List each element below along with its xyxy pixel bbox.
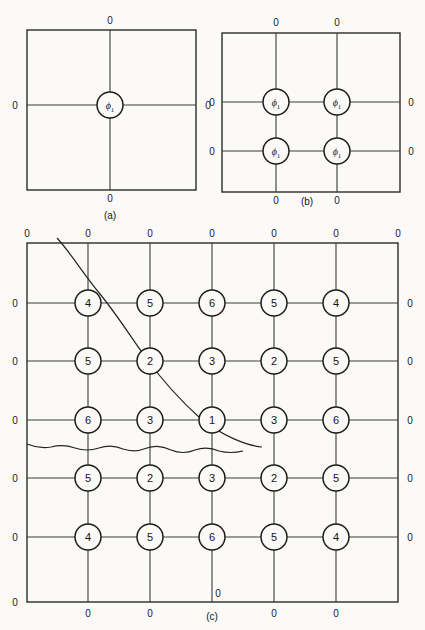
panel-c-zero-bottom-center-inner: 0 bbox=[215, 588, 221, 599]
panel-b: ϕ1 ϕ1 ϕ1 ϕ1 0 0 0 0 0 0 0 0 (b) bbox=[209, 17, 414, 207]
panel-b-zero-top-2: 0 bbox=[334, 17, 340, 28]
panel-c-zero-top: 0 bbox=[333, 228, 339, 239]
panel-b-zero-left-1: 0 bbox=[209, 97, 215, 108]
panel-b-frame bbox=[222, 33, 400, 192]
panel-b-zero-right-1: 0 bbox=[408, 97, 414, 108]
wavy-boundary-curve bbox=[27, 444, 243, 453]
panel-a-caption: (a) bbox=[104, 210, 116, 221]
panel-c-node-label: 5 bbox=[147, 297, 153, 309]
panel-c-node-label: 2 bbox=[147, 355, 153, 367]
panel-c-zero-right: 0 bbox=[407, 298, 413, 309]
panel-b-zero-right-2: 0 bbox=[408, 146, 414, 157]
panel-c-zero-right: 0 bbox=[407, 532, 413, 543]
panel-a: ϕ1 0 0 0 0 (a) bbox=[12, 15, 211, 221]
panel-c-node-label: 3 bbox=[271, 414, 277, 426]
panel-c-node-label: 5 bbox=[85, 355, 91, 367]
panel-c-zero-top: 0 bbox=[85, 228, 91, 239]
panel-c-zero-markers-top: 0 0 0 0 0 0 0 bbox=[24, 228, 401, 239]
panel-c-zero-top: 0 bbox=[395, 228, 401, 239]
panel-c-zero-bottom: 0 bbox=[147, 608, 153, 619]
panel-c-zero-top: 0 bbox=[24, 228, 30, 239]
panel-c-zero-left: 0 bbox=[12, 532, 18, 543]
panel-c-node-label: 3 bbox=[209, 472, 215, 484]
panel-c-node-label: 1 bbox=[209, 414, 215, 426]
panel-c-node-label: 5 bbox=[271, 297, 277, 309]
panel-c-zero-left: 0 bbox=[12, 356, 18, 367]
panel-c-zero-markers-right: 0 0 0 0 0 bbox=[407, 298, 413, 543]
panel-a-zero-top: 0 bbox=[107, 15, 113, 26]
panel-c-zero-bottom: 0 bbox=[333, 608, 339, 619]
panel-c-zero-right: 0 bbox=[407, 356, 413, 367]
panel-b-zero-bottom-2: 0 bbox=[334, 195, 340, 206]
panel-c-zero-top: 0 bbox=[147, 228, 153, 239]
panel-c-zero-markers-left: 0 0 0 0 0 0 bbox=[12, 298, 18, 608]
phi-subscript-glyph: 1 bbox=[111, 106, 115, 114]
figure-svg: ϕ1 0 0 0 0 (a) ϕ1 bbox=[0, 0, 425, 630]
panel-b-zero-bottom-1: 0 bbox=[273, 195, 279, 206]
panel-c-node-label: 5 bbox=[333, 355, 339, 367]
panel-a-zero-bottom: 0 bbox=[107, 193, 113, 204]
panel-c-node-label: 6 bbox=[209, 531, 215, 543]
panel-c-zero-right: 0 bbox=[407, 415, 413, 426]
panel-c-zero-left: 0 bbox=[12, 298, 18, 309]
panel-c-node-label: 5 bbox=[271, 531, 277, 543]
panel-c-zero-bottom: 0 bbox=[85, 608, 91, 619]
panel-c-node-label: 4 bbox=[85, 297, 91, 309]
panel-c-zero-left: 0 bbox=[12, 415, 18, 426]
panel-c-node-label: 3 bbox=[209, 355, 215, 367]
panel-c-zero-top: 0 bbox=[209, 228, 215, 239]
panel-b-zero-top-1: 0 bbox=[273, 17, 279, 28]
panel-c-node-label: 6 bbox=[209, 297, 215, 309]
panel-c-node-label: 2 bbox=[147, 472, 153, 484]
panel-c-zero-top: 0 bbox=[271, 228, 277, 239]
panel-c-zero-left-corner: 0 bbox=[12, 597, 18, 608]
panel-c-node-label: 4 bbox=[333, 297, 339, 309]
panel-c-zero-left: 0 bbox=[12, 473, 18, 484]
figure-root: ϕ1 0 0 0 0 (a) ϕ1 bbox=[0, 0, 425, 630]
panel-c-node-label: 6 bbox=[85, 414, 91, 426]
panel-c-node-label: 4 bbox=[333, 531, 339, 543]
panel-c-node-label: 2 bbox=[271, 472, 277, 484]
panel-c-node-label: 5 bbox=[147, 531, 153, 543]
panel-b-caption: (b) bbox=[301, 196, 313, 207]
panel-b-zero-left-2: 0 bbox=[209, 146, 215, 157]
panel-a-zero-left: 0 bbox=[12, 100, 18, 111]
panel-c-zero-right: 0 bbox=[407, 473, 413, 484]
panel-c-node-label: 4 bbox=[85, 531, 91, 543]
panel-c-node-label: 6 bbox=[333, 414, 339, 426]
panel-c: 4 5 6 5 4 5 2 3 2 5 6 bbox=[12, 228, 413, 622]
panel-c-node-label: 3 bbox=[147, 414, 153, 426]
panel-c-zero-bottom: 0 bbox=[271, 608, 277, 619]
panel-c-caption: (c) bbox=[206, 611, 218, 622]
panel-c-node-label: 5 bbox=[333, 472, 339, 484]
panel-c-node-label: 2 bbox=[271, 355, 277, 367]
panel-c-node-label: 5 bbox=[85, 472, 91, 484]
